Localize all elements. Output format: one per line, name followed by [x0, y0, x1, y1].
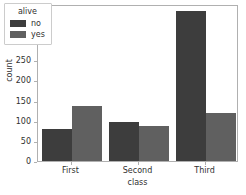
- x-tick-mark: [71, 162, 72, 165]
- x-tick-mark: [205, 162, 206, 165]
- x-tick-label: Third: [165, 166, 245, 175]
- plot-area: [37, 5, 238, 162]
- y-tick-label: 50: [21, 137, 31, 147]
- legend-label: yes: [31, 30, 45, 40]
- y-tick-label: 150: [16, 97, 31, 107]
- x-axis-ticks: FirstSecondThird: [37, 162, 238, 178]
- y-tick-label: 200: [16, 76, 31, 86]
- bar-chart-figure: 050100150200250300350 count FirstSecondT…: [0, 0, 246, 195]
- bar: [139, 126, 169, 161]
- y-tick-label: 100: [16, 117, 31, 127]
- legend-entries: noyes: [10, 18, 45, 40]
- legend: alive noyes: [4, 3, 52, 45]
- x-axis-label: class: [37, 178, 238, 187]
- legend-label: no: [31, 19, 41, 29]
- bar: [176, 11, 206, 161]
- y-tick-label: 250: [16, 56, 31, 66]
- bar: [109, 122, 139, 161]
- legend-title: alive: [10, 7, 45, 17]
- legend-entry: no: [10, 18, 45, 29]
- y-axis-label: count: [5, 41, 14, 101]
- x-tick-mark: [138, 162, 139, 165]
- bar: [206, 113, 236, 161]
- legend-entry: yes: [10, 29, 45, 40]
- bar: [72, 106, 102, 161]
- bar: [42, 129, 72, 161]
- legend-swatch: [10, 20, 26, 27]
- legend-swatch: [10, 31, 26, 38]
